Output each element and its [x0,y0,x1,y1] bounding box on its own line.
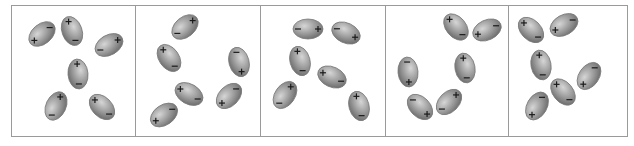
panel-5 [513,9,605,124]
molecule-body [521,88,553,124]
molecule-body [57,13,86,48]
dipole-molecule [397,56,420,88]
molecule-body [91,29,127,61]
dipole-molecule [469,15,505,46]
dipole-molecule [431,84,466,119]
molecule-body [67,58,90,90]
dipole-molecule [171,78,207,110]
molecules-layer [24,9,606,132]
molecule-body [314,62,350,93]
molecule-body [167,10,203,45]
dipole-molecule [529,48,554,81]
molecule-body [345,89,372,123]
dipole-molecule [91,29,127,61]
dipole-molecule [546,9,582,41]
dipole-molecule [314,62,350,93]
molecule-body [529,48,554,81]
dipole-molecule [521,88,553,124]
molecule-body [513,12,548,47]
molecule-body [171,78,207,110]
molecule-body [469,15,505,46]
panel-3 [268,18,372,123]
molecule-body [546,9,582,41]
dipole-molecule [67,58,90,90]
dipole-molecule [328,18,364,49]
dipole-molecule [225,45,252,79]
dipole-molecule [286,44,313,78]
dipole-molecule [41,88,72,124]
molecule-body [146,98,182,132]
molecule-body [211,78,246,113]
molecule-body [572,58,606,94]
molecule-body [152,40,186,76]
panel-2 [146,10,253,132]
molecule-body [397,56,420,88]
dipole-molecule [268,77,302,113]
dipole-molecule [293,19,323,39]
dipole-molecule [453,51,478,84]
panel-1 [24,13,127,124]
dipole-molecule [167,10,203,45]
dipole-molecule [345,89,372,123]
dipole-molecule [513,12,548,47]
dipole-molecule [402,89,437,124]
molecule-body [328,18,364,49]
dipole-molecule [24,17,60,52]
dipole-diagram [0,0,634,146]
dipole-molecule [146,98,182,132]
molecule-body [431,84,466,119]
molecule-body [286,44,313,78]
molecule-body [41,88,72,124]
molecule-body [84,89,119,124]
panel-4 [397,9,505,125]
dipole-molecule [211,78,246,113]
dipole-molecule [439,9,474,45]
dipole-molecule [84,89,119,124]
dipole-molecule [572,58,606,94]
molecule-body [268,77,302,113]
molecule-body [546,74,581,110]
dipole-molecule [546,74,581,110]
dipole-molecule [152,40,186,76]
dipole-molecule [57,13,86,48]
molecule-body [439,9,474,45]
molecule-body [453,51,478,84]
molecule-body [24,17,60,52]
molecule-body [225,45,252,79]
molecule-body [402,89,437,124]
